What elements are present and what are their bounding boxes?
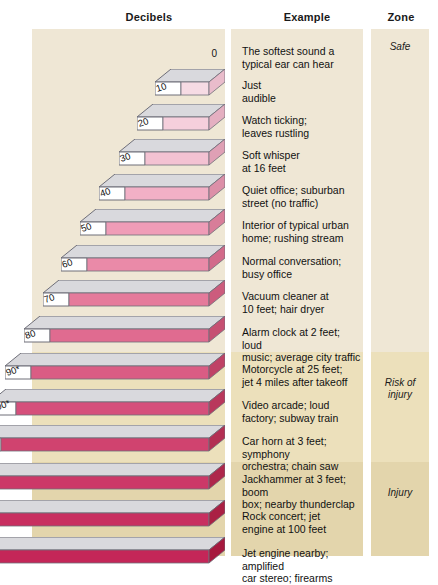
column-header-example: Example — [252, 11, 362, 23]
bar-110: 110* — [0, 425, 225, 455]
example-line: The softest sound a — [242, 45, 362, 58]
example-panel: The softest sound atypical ear can hearJ… — [231, 29, 363, 556]
example-text-70: Vacuum cleaner at10 feet; hair dryer — [242, 290, 362, 315]
example-line: busy office — [242, 268, 362, 281]
example-line: car stereo; firearms — [242, 572, 362, 585]
zone-label-injury: Injury — [371, 487, 429, 499]
zone-panel: Safe Risk of injury Injury — [371, 29, 429, 556]
example-line: Soft whisper — [242, 149, 362, 162]
example-line: at 16 feet — [242, 162, 362, 175]
example-line: orchestra; chain saw — [242, 460, 362, 473]
bar-90: 90* — [5, 353, 225, 383]
example-line: typical ear can hear — [242, 58, 362, 71]
example-text-110: Car horn at 3 feet; symphonyorchestra; c… — [242, 435, 362, 473]
example-text-130: Rock concert; jetengine at 100 feet — [242, 510, 362, 535]
bar-120: 120 — [0, 463, 225, 493]
example-text-120: Jackhammer at 3 feet; boombox; nearby th… — [242, 473, 362, 511]
example-line: jet 4 miles after takeoff — [242, 376, 362, 389]
example-text-10: Justaudible — [242, 79, 362, 104]
example-text-140: Jet engine nearby; amplifiedcar stereo; … — [242, 547, 362, 585]
example-text-60: Normal conversation;busy office — [242, 255, 362, 280]
example-line: box; nearby thunderclap — [242, 498, 362, 511]
bar-70: 70 — [43, 280, 225, 310]
zone-band-safe: Safe — [371, 29, 429, 352]
example-text-40: Quiet office; suburbanstreet (no traffic… — [242, 184, 362, 209]
example-text-90: Motorcycle at 25 feet;jet 4 miles after … — [242, 363, 362, 388]
example-line: Watch ticking; — [242, 114, 362, 127]
example-line: Normal conversation; — [242, 255, 362, 268]
example-line: leaves rustling — [242, 127, 362, 140]
example-line: Motorcycle at 25 feet; — [242, 363, 362, 376]
column-header-decibels: Decibels — [84, 11, 214, 23]
example-text-80: Alarm clock at 2 feet; loudmusic; averag… — [242, 326, 362, 364]
zone-band-injury: Injury — [371, 462, 429, 556]
bar-140: 140 — [0, 537, 225, 567]
example-line: Video arcade; loud — [242, 399, 362, 412]
example-line: Interior of typical urban — [242, 219, 362, 232]
zone-band-risk: Risk of injury — [371, 352, 429, 462]
example-line: Rock concert; jet — [242, 510, 362, 523]
example-line: audible — [242, 92, 362, 105]
example-line: Car horn at 3 feet; symphony — [242, 435, 362, 460]
example-text-20: Watch ticking;leaves rustling — [242, 114, 362, 139]
example-line: street (no traffic) — [242, 197, 362, 210]
example-line: Just — [242, 79, 362, 92]
bar-30: 30 — [119, 139, 225, 169]
bar-10: 10 — [155, 69, 225, 99]
example-text-100: Video arcade; loudfactory; subway train — [242, 399, 362, 424]
zone-label-safe: Safe — [371, 41, 429, 53]
example-text-30: Soft whisperat 16 feet — [242, 149, 362, 174]
example-line: Vacuum cleaner at — [242, 290, 362, 303]
decibels-panel: 0 10 20 30 40 50 60 70 — [32, 29, 225, 556]
bar-130: 130 — [0, 500, 225, 530]
bar-60: 60 — [61, 245, 225, 275]
example-line: engine at 100 feet — [242, 523, 362, 536]
example-line: home; rushing stream — [242, 232, 362, 245]
example-text-50: Interior of typical urbanhome; rushing s… — [242, 219, 362, 244]
decibel-value-0: 0 — [211, 48, 217, 59]
example-line: 10 feet; hair dryer — [242, 303, 362, 316]
column-header-zone: Zone — [372, 11, 430, 23]
example-line: Jet engine nearby; amplified — [242, 547, 362, 572]
example-line: Jackhammer at 3 feet; boom — [242, 473, 362, 498]
bar-50: 50 — [80, 209, 225, 239]
example-line: Alarm clock at 2 feet; loud — [242, 326, 362, 351]
example-line: factory; subway train — [242, 412, 362, 425]
bar-100: 100* — [0, 389, 225, 419]
bar-80: 80 — [24, 316, 225, 346]
example-text-0: The softest sound atypical ear can hear — [242, 45, 362, 70]
zone-label-risk: Risk of injury — [371, 377, 429, 401]
zone-label-risk-line2: injury — [371, 389, 429, 401]
bar-40: 40 — [99, 174, 225, 204]
bar-20: 20 — [137, 104, 225, 134]
zone-label-risk-line1: Risk of — [371, 377, 429, 389]
example-line: music; average city traffic — [242, 351, 362, 364]
example-line: Quiet office; suburban — [242, 184, 362, 197]
